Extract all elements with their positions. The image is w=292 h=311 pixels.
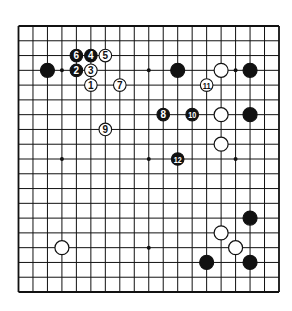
move-number: 1 — [88, 80, 94, 91]
black-stone — [40, 63, 54, 77]
move-1-white-stone: 1 — [85, 79, 98, 92]
hoshi-point — [147, 157, 151, 161]
move-number: 4 — [88, 50, 94, 61]
black-stone — [200, 255, 214, 269]
black-stone — [171, 63, 185, 77]
white-stone — [214, 226, 228, 240]
hoshi-point — [147, 68, 151, 72]
move-number: 2 — [74, 65, 80, 76]
black-stone — [243, 108, 257, 122]
hoshi-point — [60, 157, 64, 161]
move-11-white-stone: 11 — [200, 79, 213, 92]
move-8-black-stone: 8 — [157, 108, 170, 121]
hoshi-point — [234, 68, 238, 72]
white-stone — [229, 241, 243, 255]
move-number: 10 — [188, 110, 196, 120]
move-7-white-stone: 7 — [114, 79, 127, 92]
black-stone — [243, 63, 257, 77]
move-12-black-stone: 12 — [171, 153, 184, 166]
move-number: 11 — [203, 81, 211, 91]
move-9-white-stone: 9 — [99, 123, 112, 136]
go-board: 123456789101112 — [0, 0, 292, 311]
white-stone — [214, 108, 228, 122]
move-10-black-stone: 10 — [186, 108, 199, 121]
move-6-black-stone: 6 — [70, 49, 83, 62]
move-number: 6 — [74, 50, 80, 61]
move-number: 9 — [103, 124, 109, 135]
hoshi-point — [60, 68, 64, 72]
move-number: 7 — [117, 80, 123, 91]
move-5-white-stone: 5 — [99, 49, 112, 62]
black-stone — [243, 255, 257, 269]
move-number: 5 — [103, 50, 109, 61]
move-4-black-stone: 4 — [85, 49, 98, 62]
hoshi-point — [234, 157, 238, 161]
move-number: 8 — [160, 109, 166, 120]
white-stone — [214, 63, 228, 77]
move-number: 12 — [174, 155, 182, 165]
white-stone — [55, 241, 69, 255]
move-3-white-stone: 3 — [85, 64, 98, 77]
move-2-black-stone: 2 — [70, 64, 83, 77]
hoshi-point — [147, 246, 151, 250]
move-number: 3 — [88, 65, 94, 76]
white-stone — [214, 137, 228, 151]
black-stone — [243, 211, 257, 225]
